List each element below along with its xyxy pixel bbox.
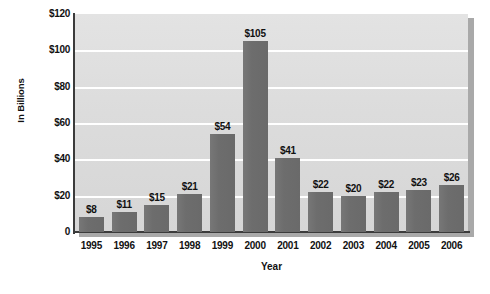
y-axis-tick-label: $60: [36, 118, 70, 128]
y-axis-tick-label: $100: [36, 45, 70, 55]
bar-value-label: $41: [268, 145, 308, 156]
bar: [341, 196, 366, 232]
y-axis-tick-label: $40: [36, 154, 70, 164]
bar-value-label: $21: [170, 181, 210, 192]
bar: [406, 190, 431, 232]
y-axis-tick-label: 0: [36, 227, 70, 237]
y-axis-tick-label: $20: [36, 191, 70, 201]
y-axis-line: [73, 13, 75, 234]
y-axis-tick-labels: 0$20$40$60$80$100$120: [36, 0, 70, 294]
bar: [275, 158, 300, 232]
bar-value-label: $54: [202, 121, 242, 132]
bar: [243, 41, 268, 232]
y-axis-tick-label: $80: [36, 82, 70, 92]
y-axis-title: In Billions: [15, 51, 26, 151]
gridline: [75, 159, 468, 161]
bar: [79, 217, 104, 232]
gridline: [75, 50, 468, 52]
bar: [374, 192, 399, 232]
bar: [308, 192, 333, 232]
gridline: [75, 123, 468, 125]
x-axis-title: Year: [252, 261, 292, 272]
bar: [439, 185, 464, 232]
bar-chart-figure: In Billions 0$20$40$60$80$100$120 $81995…: [0, 0, 490, 294]
gridline: [75, 87, 468, 89]
y-axis-tick-label: $120: [36, 9, 70, 19]
bar: [144, 205, 169, 232]
bar-value-label: $105: [235, 28, 275, 39]
bar-value-label: $26: [432, 172, 472, 183]
bar: [177, 194, 202, 232]
x-axis-tick-label: 2006: [432, 240, 472, 251]
bar: [112, 212, 137, 232]
bar-value-label: $15: [137, 192, 177, 203]
plot-shadow-right: [468, 18, 474, 236]
bar: [210, 134, 235, 232]
